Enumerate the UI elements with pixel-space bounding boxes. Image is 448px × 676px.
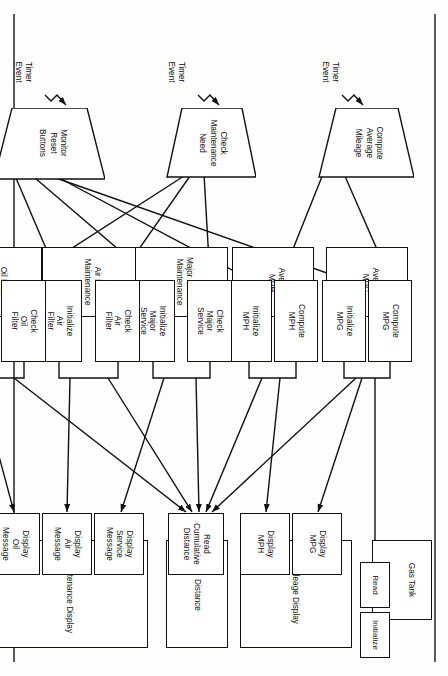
event-label-line2: Event xyxy=(13,42,23,102)
op-line-1: Display xyxy=(20,525,30,563)
operation-check-major-service[interactable]: Check Major Service xyxy=(187,280,232,362)
edge-avgmph-displaymph xyxy=(266,378,280,512)
operation-check-air-filter[interactable]: Check Air Filter xyxy=(95,280,140,362)
operation-read-cumulative-distance[interactable]: Read Cumulative Distance xyxy=(168,513,224,575)
operation-initialize-mph[interactable]: Initialize MPH xyxy=(228,280,272,362)
op-line-3: Service xyxy=(195,305,205,337)
edge-majorservice-readdistance xyxy=(196,378,199,512)
event-label-line1: Timer xyxy=(176,42,186,102)
controller-line-2: Reset xyxy=(48,110,58,176)
op-line-2: MPG xyxy=(334,304,344,339)
operation-check-oil-filter[interactable]: Check Oil Filter xyxy=(1,280,46,362)
op-line-2: Oil xyxy=(10,525,20,563)
event-label-line2: Event xyxy=(166,42,176,102)
op-line-2: MPH xyxy=(286,302,296,340)
event-arrow-reset xyxy=(45,95,66,105)
op-line-1: Display xyxy=(265,528,275,560)
op-line-2: Oil xyxy=(19,307,29,335)
op-line-1: Read xyxy=(201,521,211,567)
controller-line-2: Maintenance xyxy=(208,109,218,177)
module-label-line-2: Maintenance xyxy=(174,248,184,316)
operation-compute-mpg[interactable]: Compute MPG xyxy=(368,280,412,362)
op-line-3: Message xyxy=(52,525,62,563)
operation-display-mpg[interactable]: Display MPG xyxy=(292,513,342,575)
edge-airfilter-displayair xyxy=(67,378,70,512)
edge-airfilter-readdistance xyxy=(108,378,192,512)
edge-avgmph-readdistance xyxy=(206,378,262,512)
op-line-1: Read xyxy=(370,573,380,597)
operation-gas-tank-read[interactable]: Read xyxy=(360,562,390,608)
operation-display-service-message[interactable]: Display Service Message xyxy=(94,513,144,575)
edge-oilfilter-readdistance xyxy=(14,378,186,512)
op-line-1: Initialize xyxy=(157,304,167,339)
event-label-maintenance: Timer Event xyxy=(166,42,187,102)
figure-page: Timer Event Timer Event Timer Event Comp… xyxy=(0,0,448,676)
op-line-2: Cumulative xyxy=(191,521,201,567)
edge-avgmpg-displaympg xyxy=(318,378,362,512)
op-line-1: Display xyxy=(317,528,327,560)
op-line-3: Message xyxy=(104,525,114,563)
op-line-1: Display xyxy=(124,525,134,563)
op-line-1: Check xyxy=(214,305,224,337)
event-label-mileage: Timer Event xyxy=(320,42,341,102)
operation-display-mph[interactable]: Display MPH xyxy=(240,513,290,575)
op-line-1: Compute xyxy=(296,302,306,340)
bracket-major-service xyxy=(153,362,210,378)
device-label-gas-tank: Gas Tank xyxy=(406,545,416,615)
op-line-1: Initialize xyxy=(370,618,380,652)
op-line-2: Major xyxy=(205,305,215,337)
op-line-2: Service xyxy=(114,525,124,563)
event-label-line1: Timer xyxy=(23,42,33,102)
op-line-2: MPH xyxy=(255,528,265,560)
op-line-1: Initialize xyxy=(344,304,354,339)
bracket-air-filter xyxy=(59,362,118,378)
op-line-1: Check xyxy=(28,307,38,335)
operation-compute-mph[interactable]: Compute MPH xyxy=(274,280,318,362)
event-arrow-maintenance xyxy=(198,95,219,105)
controller-line-2: Average xyxy=(364,111,374,175)
controller-label-compute-average-mileage: Compute Average Mileage xyxy=(353,111,384,175)
op-line-3: Filter xyxy=(45,304,55,339)
event-label-line1: Timer xyxy=(330,42,340,102)
op-line-2: MPG xyxy=(307,528,317,560)
event-label-line2: Event xyxy=(320,42,330,102)
operation-display-air-message[interactable]: Display Air Message xyxy=(42,513,92,575)
controller-line-1: Monitor xyxy=(58,110,68,176)
edge-avgmpg-readdistance xyxy=(212,378,356,512)
op-line-2: Air xyxy=(113,307,123,335)
edge-oilfilter-displayoil xyxy=(0,378,14,512)
op-line-3: Filter xyxy=(103,307,113,335)
edge-majorservice-displayservice xyxy=(121,378,164,512)
op-line-2: MPH xyxy=(240,304,250,339)
controller-line-3: Need xyxy=(197,109,207,177)
op-line-2: Air xyxy=(62,525,72,563)
op-line-1: Display xyxy=(72,525,82,563)
controller-line-1: Check xyxy=(218,109,228,177)
op-line-1: Initialize xyxy=(250,304,260,339)
op-line-1: Initialize xyxy=(64,304,74,339)
op-line-3: Distance xyxy=(181,521,191,567)
op-line-3: Filter xyxy=(9,307,19,335)
controller-line-1: Compute xyxy=(374,111,384,175)
controller-label-monitor-reset-buttons: Monitor Reset Buttons xyxy=(37,110,68,176)
operation-gas-tank-initialize[interactable]: Initialize xyxy=(360,612,390,658)
operation-initialize-mpg[interactable]: Initialize MPG xyxy=(322,280,366,362)
op-line-2: Major xyxy=(148,304,158,339)
bracket-average-mph xyxy=(249,362,296,378)
controller-line-3: Buttons xyxy=(37,110,47,176)
module-label-line-2: Maintenance xyxy=(82,248,92,316)
event-label-reset: Timer Event xyxy=(13,42,34,102)
op-line-2: Air xyxy=(55,304,65,339)
controller-line-3: Mileage xyxy=(353,111,363,175)
bracket-average-mpg xyxy=(344,362,390,378)
controller-label-check-maintenance-need: Check Maintenance Need xyxy=(197,109,228,177)
operation-display-oil-message[interactable]: Display Oil Message xyxy=(0,513,40,575)
op-line-1: Compute xyxy=(390,302,400,340)
diagram-canvas: Timer Event Timer Event Timer Event Comp… xyxy=(0,0,448,676)
op-line-2: MPG xyxy=(380,302,390,340)
bracket-oil-filter xyxy=(0,362,24,378)
device-label-line-1: Gas Tank xyxy=(406,545,416,615)
op-line-1: Check xyxy=(122,307,132,335)
op-line-3: Message xyxy=(0,525,10,563)
